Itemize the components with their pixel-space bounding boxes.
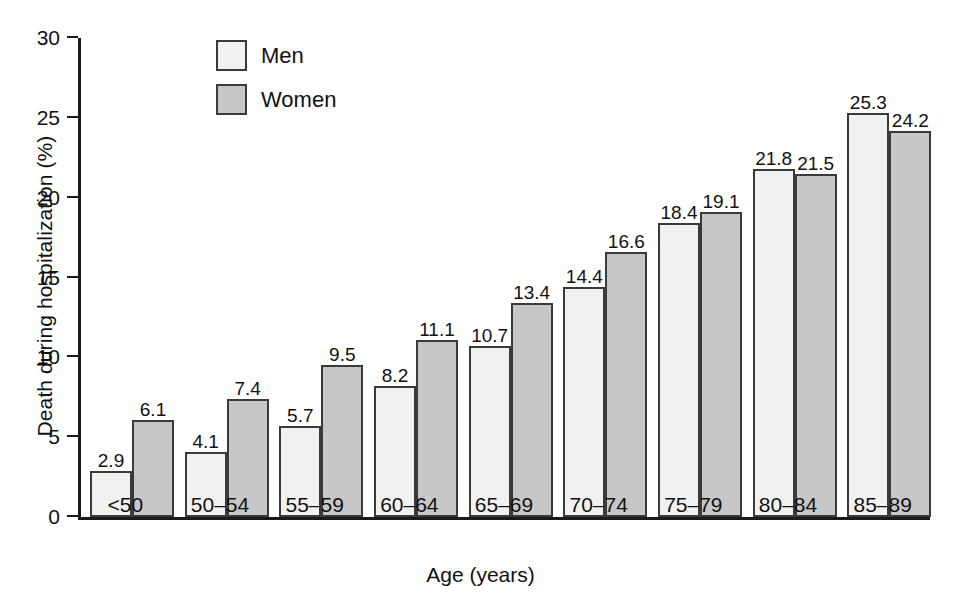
y-tick-15: 15 xyxy=(67,276,78,278)
legend-label-women: Women xyxy=(261,89,336,111)
bar-value-label: 18.4 xyxy=(661,203,698,222)
y-tick-30: 30 xyxy=(67,36,78,38)
bar-value-label: 11.1 xyxy=(419,320,455,339)
bar-value-label: 10.7 xyxy=(471,326,508,345)
y-tick-label-0: 0 xyxy=(48,506,60,527)
legend-swatch-women-icon xyxy=(216,84,247,115)
x-tick-label: 60–64 xyxy=(362,494,457,515)
y-tick-20: 20 xyxy=(67,196,78,198)
legend-label-men: Men xyxy=(261,45,304,67)
y-tick-5: 5 xyxy=(67,435,78,437)
bar-group: 2.96.1 xyxy=(90,38,174,517)
x-tick-label: 85–89 xyxy=(835,494,930,515)
bar-women[interactable]: 24.2 xyxy=(889,131,931,517)
bar-group: 18.419.1 xyxy=(658,38,742,517)
x-axis-line xyxy=(78,517,930,520)
bar-men[interactable]: 21.8 xyxy=(753,169,795,517)
bar-men[interactable]: 14.4 xyxy=(563,287,605,517)
x-tick-label: 55–59 xyxy=(267,494,362,515)
bar-women[interactable]: 16.6 xyxy=(605,252,647,517)
chart-figure: Death during hospitalization (%) 0510152… xyxy=(0,0,961,596)
plot-area: 051015202530 2.96.14.17.45.79.58.211.110… xyxy=(78,38,930,517)
y-tick-label-30: 30 xyxy=(37,27,60,48)
x-tick-label: 70–74 xyxy=(551,494,646,515)
x-tick-label: <50 xyxy=(78,494,173,515)
legend-item-men: Men xyxy=(216,40,336,71)
y-tick-25: 25 xyxy=(67,116,78,118)
x-tick-label: 65–69 xyxy=(457,494,552,515)
bar-value-label: 13.4 xyxy=(513,283,550,302)
bar-group: 21.821.5 xyxy=(753,38,837,517)
y-tick-0: 0 xyxy=(67,515,78,517)
bar-men[interactable]: 25.3 xyxy=(847,113,889,517)
bar-men[interactable]: 18.4 xyxy=(658,223,700,517)
y-tick-label-10: 10 xyxy=(37,346,60,367)
legend-swatch-men-icon xyxy=(216,40,247,71)
bar-value-label: 7.4 xyxy=(234,379,260,398)
x-tick-label: 80–84 xyxy=(741,494,836,515)
bar-value-label: 14.4 xyxy=(566,267,603,286)
y-tick-label-5: 5 xyxy=(48,426,60,447)
y-tick-label-20: 20 xyxy=(37,186,60,207)
bar-value-label: 6.1 xyxy=(140,400,166,419)
bar-value-label: 25.3 xyxy=(850,93,887,112)
bar-women[interactable]: 11.1 xyxy=(416,340,458,517)
y-tick-10: 10 xyxy=(67,355,78,357)
bar-value-label: 4.1 xyxy=(192,432,218,451)
bar-women[interactable]: 13.4 xyxy=(511,303,553,517)
bar-women[interactable]: 19.1 xyxy=(700,212,742,517)
bar-group: 14.416.6 xyxy=(563,38,647,517)
y-tick-label-25: 25 xyxy=(37,106,60,127)
x-axis-label: Age (years) xyxy=(0,563,961,587)
bar-value-label: 8.2 xyxy=(382,366,408,385)
bar-women[interactable]: 21.5 xyxy=(795,174,837,517)
x-tick-label: 75–79 xyxy=(646,494,741,515)
bar-men[interactable]: 10.7 xyxy=(469,346,511,517)
bar-series-container: 2.96.14.17.45.79.58.211.110.713.414.416.… xyxy=(78,38,930,517)
bar-value-label: 5.7 xyxy=(287,406,313,425)
bar-group: 25.324.2 xyxy=(847,38,931,517)
y-tick-label-15: 15 xyxy=(37,266,60,287)
bar-value-label: 21.5 xyxy=(797,154,834,173)
legend-item-women: Women xyxy=(216,84,336,115)
bar-value-label: 2.9 xyxy=(98,451,124,470)
x-tick-label: 50–54 xyxy=(173,494,268,515)
bar-value-label: 24.2 xyxy=(892,111,929,130)
bar-value-label: 19.1 xyxy=(703,192,740,211)
bar-group: 10.713.4 xyxy=(469,38,553,517)
bar-value-label: 21.8 xyxy=(755,149,792,168)
legend: Men Women xyxy=(216,40,336,128)
bar-value-label: 9.5 xyxy=(329,345,355,364)
bar-group: 8.211.1 xyxy=(374,38,458,517)
bar-value-label: 16.6 xyxy=(608,232,645,251)
